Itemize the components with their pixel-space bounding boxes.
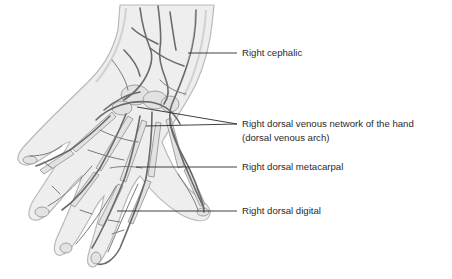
label-right-dorsal-metacarpal: Right dorsal metacarpal [242, 161, 343, 173]
label-right-dorsal-venous-network: Right dorsal venous network of the hand [242, 118, 414, 130]
hand-vein-illustration [0, 0, 452, 279]
label-dorsal-venous-arch: (dorsal venous arch) [242, 132, 329, 144]
label-right-dorsal-digital: Right dorsal digital [242, 205, 321, 217]
label-right-cephalic: Right cephalic [242, 47, 302, 59]
